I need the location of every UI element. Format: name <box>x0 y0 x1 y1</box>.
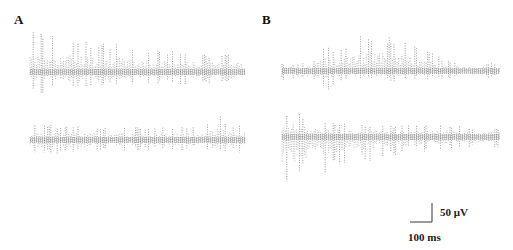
scale-bar-voltage-label: 50 μV <box>440 206 468 218</box>
trace-a-lower <box>30 117 245 154</box>
trace-b-lower <box>282 114 500 181</box>
scale-bar-time-label: 100 ms <box>408 231 441 243</box>
trace-b-upper <box>282 36 500 89</box>
traces-plot <box>0 0 513 250</box>
trace-a-upper <box>30 32 245 92</box>
scale-bar <box>410 203 432 222</box>
